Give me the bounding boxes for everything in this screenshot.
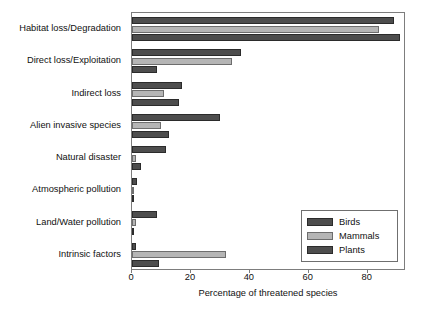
- legend-item-plants[interactable]: Plants: [307, 243, 392, 257]
- legend-label: Mammals: [339, 231, 379, 241]
- y-axis-tick-label: Intrinsic factors: [58, 248, 121, 259]
- bar-birds-2: [132, 82, 182, 89]
- bar-birds-4: [132, 146, 166, 153]
- chart-legend: BirdsMammalsPlants: [301, 210, 398, 262]
- y-axis-category-labels: Habitat loss/DegradationDirect loss/Expl…: [0, 12, 126, 270]
- bar-mammals-4: [132, 155, 136, 162]
- bar-mammals-3: [132, 122, 161, 129]
- x-axis-tick-label: 0: [128, 272, 133, 282]
- bar-plants-1: [132, 66, 157, 73]
- bar-plants-2: [132, 99, 179, 106]
- bar-birds-7: [132, 243, 136, 250]
- y-axis-tick-label: Alien invasive species: [30, 119, 121, 130]
- bar-plants-0: [132, 34, 400, 41]
- y-axis-tick-label: Atmospheric pollution: [32, 184, 121, 195]
- x-axis-tick-label: 60: [303, 272, 313, 282]
- x-axis-tick-label: 20: [185, 272, 195, 282]
- x-axis-tick-label: 40: [244, 272, 254, 282]
- bar-birds-5: [132, 178, 137, 185]
- legend-swatch-icon: [307, 232, 333, 240]
- bar-mammals-7: [132, 251, 226, 258]
- legend-item-mammals[interactable]: Mammals: [307, 229, 392, 243]
- y-axis-tick-label: Natural disaster: [56, 152, 121, 163]
- bar-mammals-5: [132, 187, 134, 194]
- x-axis-ticks: 020406080: [131, 270, 405, 290]
- legend-label: Plants: [339, 245, 365, 255]
- y-axis-tick-label: Indirect loss: [71, 87, 121, 98]
- bar-plants-7: [132, 260, 159, 267]
- legend-swatch-icon: [307, 218, 333, 226]
- bar-plants-3: [132, 131, 169, 138]
- y-axis-tick-label: Land/Water pollution: [36, 216, 121, 227]
- bar-birds-1: [132, 49, 241, 56]
- bar-mammals-2: [132, 90, 164, 97]
- bar-mammals-6: [132, 219, 136, 226]
- bar-mammals-0: [132, 26, 379, 33]
- legend-label: Birds: [339, 217, 360, 227]
- x-axis-tick-label: 80: [362, 272, 372, 282]
- bar-birds-0: [132, 17, 394, 24]
- bar-plants-4: [132, 163, 141, 170]
- y-axis-tick-label: Habitat loss/Degradation: [19, 23, 121, 34]
- chart-figure: Habitat loss/DegradationDirect loss/Expl…: [0, 0, 433, 323]
- bar-plants-5: [132, 195, 134, 202]
- x-axis-title: Percentage of threatened species: [131, 288, 405, 298]
- bar-mammals-1: [132, 58, 232, 65]
- legend-swatch-icon: [307, 246, 333, 254]
- y-axis-tick-label: Direct loss/Exploitation: [27, 55, 121, 66]
- bar-birds-3: [132, 114, 220, 121]
- bar-plants-6: [132, 228, 134, 235]
- legend-item-birds[interactable]: Birds: [307, 215, 392, 229]
- bar-birds-6: [132, 211, 157, 218]
